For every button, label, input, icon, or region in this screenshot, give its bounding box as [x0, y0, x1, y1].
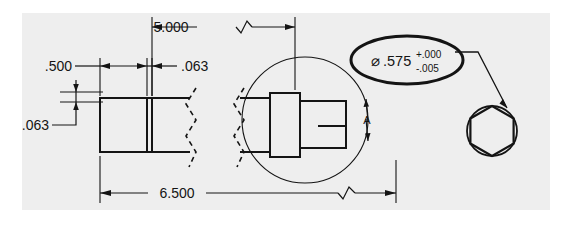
callout-tolerance-lower: -.005 [416, 63, 439, 74]
callout-diameter-symbol: ⌀ [371, 53, 380, 69]
dimension-label-500: .500 [45, 58, 72, 74]
dimension-label-6500: 6.500 [159, 185, 194, 201]
dimension-label-5000: 5.000 [153, 19, 188, 35]
dimension-label-063-vertical: .063 [22, 117, 49, 133]
technical-drawing-canvas: 5.000 .500 .063 .063 6.500 ⌀ .575 +.000 … [0, 0, 567, 234]
callout-value: .575 [383, 53, 411, 69]
callout-tolerance-upper: +.000 [416, 49, 442, 60]
view-marker-letter: A [363, 114, 371, 126]
engineering-drawing-svg: 5.000 .500 .063 .063 6.500 ⌀ .575 +.000 … [0, 0, 567, 234]
dimension-label-063-horizontal: .063 [181, 58, 208, 74]
